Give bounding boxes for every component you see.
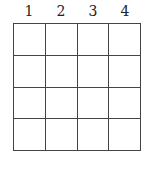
column-label-1: 1: [13, 3, 45, 19]
grid-cell-r3-c1: [13, 87, 45, 119]
grid-cell-r2-c4: [108, 55, 140, 87]
grid-cell-r2-c1: [13, 55, 45, 87]
column-label-2: 2: [45, 3, 77, 19]
grid-cell-r1-c1: [13, 23, 45, 55]
grid-cell-r3-c3: [77, 87, 109, 119]
grid-cell-r4-c4: [108, 118, 140, 150]
grid: [13, 23, 141, 151]
grid-cell-r4-c3: [77, 118, 109, 150]
grid-cell-r1-c4: [108, 23, 140, 55]
column-labels: 1 2 3 4: [13, 3, 141, 19]
grid-cell-r3-c2: [45, 87, 77, 119]
grid-cell-r3-c4: [108, 87, 140, 119]
grid-cell-r2-c2: [45, 55, 77, 87]
grid-cell-r1-c3: [77, 23, 109, 55]
column-label-4: 4: [109, 3, 141, 19]
grid-cell-r1-c2: [45, 23, 77, 55]
grid-cell-r4-c2: [45, 118, 77, 150]
column-label-3: 3: [77, 3, 109, 19]
grid-cell-r2-c3: [77, 55, 109, 87]
grid-cell-r4-c1: [13, 118, 45, 150]
